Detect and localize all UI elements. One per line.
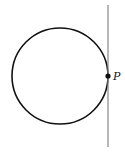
circle <box>12 28 108 124</box>
point-p-dot <box>105 73 110 78</box>
diagram-canvas: P <box>0 0 125 153</box>
point-p-label: P <box>112 70 121 83</box>
